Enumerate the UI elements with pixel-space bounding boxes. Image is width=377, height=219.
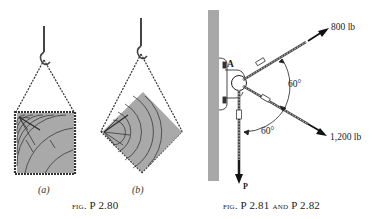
cable-800 — [243, 28, 329, 80]
force-label-800: 800 lb — [331, 22, 355, 32]
figure-caption-p2-81-82: fig. P 2.81 and P 2.82 — [223, 199, 320, 211]
crate-b — [102, 92, 182, 172]
arrow-P — [235, 174, 243, 184]
caption-number: P 2.80 — [90, 199, 119, 211]
figure-caption-p2-80: fig. P 2.80 — [72, 199, 118, 211]
crate-diagram — [0, 0, 190, 219]
caption-number-1: P 2.81 — [241, 199, 270, 211]
wall — [208, 10, 219, 181]
angle-label-lower: 60° — [261, 126, 274, 136]
force-label-1200: 1,200 lb — [330, 132, 361, 142]
caption-conjunction: and — [272, 200, 288, 211]
figure-p2-80: (a) (b) fig. P 2.80 — [0, 0, 190, 219]
point-label-A: A — [227, 59, 234, 69]
force-diagram — [190, 0, 377, 219]
arrow-800 — [318, 28, 329, 37]
subfigure-label-a: (a) — [38, 184, 50, 195]
crate-a — [17, 113, 74, 173]
figure-p2-81-82: A 800 lb 1,200 lb P 60° 60° fig. P 2.81 … — [190, 0, 377, 219]
angle-label-upper: 60° — [288, 79, 301, 89]
hook-icon-b — [137, 18, 147, 59]
caption-prefix: fig. — [223, 200, 238, 211]
subfigure-label-b: (b) — [132, 184, 144, 195]
caption-prefix: fig. — [72, 200, 87, 211]
caption-number-2: P 2.82 — [291, 199, 320, 211]
hook-icon-a — [40, 26, 50, 65]
cable-P — [235, 90, 243, 184]
force-label-P: P — [243, 182, 248, 191]
cable-1200 — [243, 86, 327, 136]
